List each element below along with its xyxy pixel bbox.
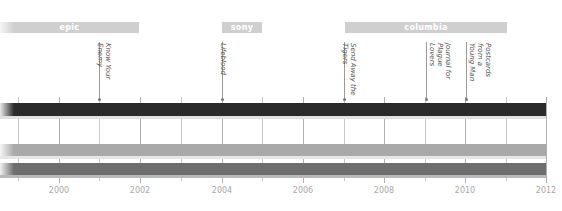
band-fade: [0, 163, 14, 175]
year-label-2004: 2004: [212, 186, 232, 195]
band-fade: [0, 144, 14, 156]
label-epic: epic: [60, 23, 80, 32]
marker-dot: [425, 98, 428, 101]
album-label: Postcards from a Young Man: [468, 43, 492, 85]
album-label: Lifeblood: [219, 43, 227, 88]
marker-dot: [343, 98, 346, 101]
album-label: Know Your Enemy: [96, 43, 112, 88]
label-columbia: columbia: [404, 23, 447, 32]
label-bar-epic: epic: [0, 22, 139, 33]
label-bar-sony: sony: [222, 22, 262, 33]
label-bar-columbia: columbia: [345, 22, 507, 33]
year-label-2000: 2000: [49, 186, 69, 195]
year-label-2010: 2010: [455, 186, 475, 195]
album-label: Journal for Plague Lovers: [428, 43, 452, 85]
album-label: Send Away the Tigers: [341, 43, 357, 98]
band-dark: [0, 103, 546, 119]
band-light: [0, 144, 546, 159]
marker-line: [426, 42, 427, 99]
marker-dot: [221, 98, 224, 101]
year-label-2002: 2002: [130, 186, 150, 195]
gridline-2012: [546, 97, 547, 183]
marker-dot: [465, 98, 468, 101]
year-label-2006: 2006: [293, 186, 313, 195]
label-sony: sony: [231, 23, 253, 32]
year-label-2012: 2012: [536, 186, 556, 195]
band-fade: [0, 103, 14, 116]
band-medium: [0, 163, 546, 178]
marker-dot: [98, 98, 101, 101]
year-label-2008: 2008: [374, 186, 394, 195]
marker-line: [466, 42, 467, 99]
